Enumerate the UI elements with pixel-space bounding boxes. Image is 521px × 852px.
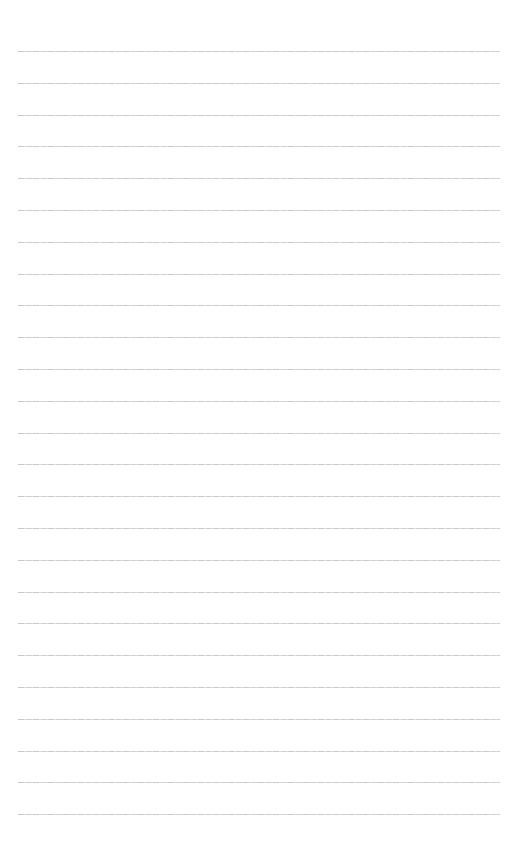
- ruled-line: [18, 337, 500, 338]
- ruled-line: [18, 242, 500, 243]
- ruled-line: [18, 274, 500, 275]
- ruled-line: [18, 115, 500, 116]
- ruled-line: [18, 687, 500, 688]
- ruled-line: [18, 305, 500, 306]
- ruled-line: [18, 560, 500, 561]
- ruled-line: [18, 623, 500, 624]
- ruled-line: [18, 51, 500, 52]
- ruled-line: [18, 464, 500, 465]
- ruled-line: [18, 210, 500, 211]
- ruled-line: [18, 369, 500, 370]
- ruled-line: [18, 592, 500, 593]
- ruled-line: [18, 178, 500, 179]
- ruled-line: [18, 146, 500, 147]
- ruled-line: [18, 83, 500, 84]
- ruled-line: [18, 751, 500, 752]
- ruled-line: [18, 528, 500, 529]
- ruled-line: [18, 433, 500, 434]
- ruled-line: [18, 401, 500, 402]
- ruled-line: [18, 814, 500, 815]
- lined-paper-page: [0, 0, 521, 852]
- ruled-line: [18, 496, 500, 497]
- ruled-line: [18, 719, 500, 720]
- ruled-line: [18, 655, 500, 656]
- ruled-line: [18, 782, 500, 783]
